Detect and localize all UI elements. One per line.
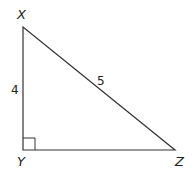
side-label-xy: 4	[11, 83, 19, 97]
right-angle-marker	[23, 138, 35, 150]
vertex-label-z: Z	[174, 154, 185, 169]
vertex-label-x: X	[16, 7, 27, 22]
triangle-xyz	[23, 27, 175, 150]
triangle-diagram: X Y Z 4 5	[0, 0, 194, 178]
vertex-label-y: Y	[17, 154, 26, 169]
side-label-xz: 5	[97, 74, 105, 88]
